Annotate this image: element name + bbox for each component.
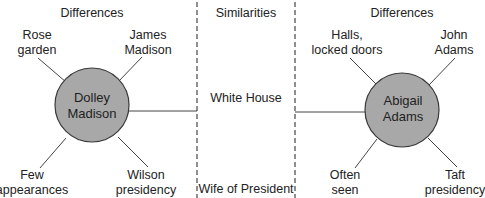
right-differences-header: Differences [371,6,434,21]
similarities-header: Similarities [216,6,276,21]
center-line1: Abigail [383,93,423,109]
attr-line2: presidency [425,183,485,198]
center-line2: Madison [67,106,116,122]
spoke-james-madison [119,57,142,81]
spoke-wilson-presidency [118,137,148,167]
attr-line1: Few [0,168,68,183]
spoke-taft-presidency [428,138,457,167]
dolley-madison-label: Dolley Madison [67,90,116,122]
spoke-rose-garden [38,58,66,82]
attr-line1: Taft [425,168,485,183]
similarity-wife-of-president: Wife of President [198,182,293,197]
attr-taft-presidency: Taft presidency [425,168,485,198]
center-line2: Adams [383,109,423,125]
attr-line1: Often [330,168,361,183]
spoke-halls-locked-doors [350,58,376,84]
attr-wilson-presidency: Wilson presidency [116,168,176,198]
attr-line2: locked doors [312,43,383,58]
spoke-john-adams [429,58,455,85]
attr-often-seen: Often seen [330,168,361,198]
similarity-white-house: White House [210,91,282,106]
attr-james-madison: James Madison [124,28,171,58]
attr-line2: garden [18,43,57,58]
attr-line2: seen [330,183,361,198]
attr-line1: James [124,28,171,43]
center-line1: Dolley [67,90,116,106]
attr-line2: appearances [0,183,68,198]
attr-line1: John [435,28,474,43]
attr-few-appearances: Few appearances [0,168,68,198]
attr-line1: Rose [18,28,57,43]
attr-rose-garden: Rose garden [18,28,57,58]
attr-halls-locked-doors: Halls, locked doors [312,28,383,58]
attr-line2: Adams [435,43,474,58]
attr-line2: presidency [116,183,176,198]
attr-line1: Wilson [116,168,176,183]
spoke-often-seen [355,139,377,168]
abigail-adams-label: Abigail Adams [383,93,423,125]
attr-john-adams: John Adams [435,28,474,58]
attr-line2: Madison [124,43,171,58]
attr-line1: Halls, [312,28,383,43]
left-differences-header: Differences [61,6,124,21]
spoke-few-appearances [40,138,66,168]
